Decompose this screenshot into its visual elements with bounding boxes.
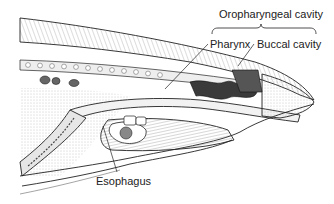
label-esophagus: Esophagus bbox=[96, 175, 151, 187]
lower-jaw-region bbox=[101, 116, 234, 151]
label-buccal-cavity: Buccal cavity bbox=[257, 38, 321, 50]
label-oropharyngeal-cavity: Oropharyngeal cavity bbox=[219, 8, 323, 20]
nerve-cords bbox=[40, 76, 79, 87]
fish-head-section-diagram bbox=[0, 0, 334, 204]
label-pharynx: Pharynx bbox=[210, 38, 250, 50]
oropharyngeal-bracket bbox=[212, 24, 316, 34]
